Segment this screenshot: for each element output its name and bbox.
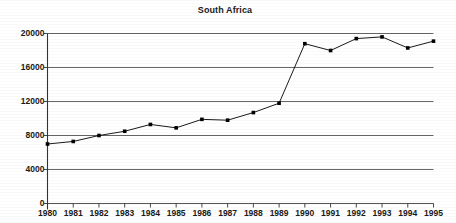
y-axis-tick-label: 16000: [21, 63, 45, 72]
data-point-marker: [71, 140, 75, 144]
x-axis-tick-label: 1995: [421, 209, 447, 218]
x-axis-tick-label: 1990: [292, 209, 318, 218]
x-axis-tick-label: 1987: [215, 209, 241, 218]
data-point-marker: [380, 35, 384, 39]
chart-plot-area: [0, 0, 456, 223]
data-point-marker: [200, 118, 204, 122]
x-axis-tick-label: 1993: [369, 209, 395, 218]
data-point-marker: [174, 126, 178, 130]
data-point-marker: [226, 118, 230, 122]
data-point-marker: [406, 46, 410, 50]
chart-container: South Africa 040008000120001600020000 19…: [0, 0, 456, 223]
x-axis-tick-label: 1981: [60, 209, 86, 218]
data-point-marker: [329, 49, 333, 53]
y-axis-tick-label: 12000: [21, 97, 45, 106]
axes-group: [44, 34, 48, 210]
x-axis-tick-label: 1980: [35, 209, 61, 218]
data-point-marker: [252, 111, 256, 115]
x-axis-tick-label: 1983: [112, 209, 138, 218]
y-axis-tick-label: 8000: [26, 131, 45, 140]
y-axis-tick-label: 0: [40, 199, 45, 208]
x-axis-tick-label: 1992: [343, 209, 369, 218]
y-axis-tick-label: 4000: [26, 165, 45, 174]
data-point-marker: [355, 37, 359, 41]
x-axis-tick-label: 1986: [189, 209, 215, 218]
x-axis-tick-label: 1982: [86, 209, 112, 218]
data-series-line: [48, 37, 434, 144]
x-axis-tick-label: 1988: [240, 209, 266, 218]
data-point-marker: [97, 134, 101, 138]
data-point-marker: [123, 129, 127, 133]
data-series-markers: [46, 35, 436, 146]
data-point-marker: [277, 101, 281, 105]
data-point-marker: [149, 123, 153, 127]
x-axis-tick-label: 1989: [266, 209, 292, 218]
x-tick-marks-group: [48, 204, 434, 208]
x-axis-tick-label: 1984: [137, 209, 163, 218]
y-axis-tick-label: 20000: [21, 29, 45, 38]
series-polyline: [48, 37, 434, 144]
data-point-marker: [303, 42, 307, 46]
x-axis-tick-label: 1994: [395, 209, 421, 218]
x-axis-tick-label: 1991: [318, 209, 344, 218]
data-point-marker: [46, 142, 50, 146]
data-point-marker: [432, 39, 436, 43]
x-axis-tick-label: 1985: [163, 209, 189, 218]
gridlines-group: [48, 34, 434, 204]
